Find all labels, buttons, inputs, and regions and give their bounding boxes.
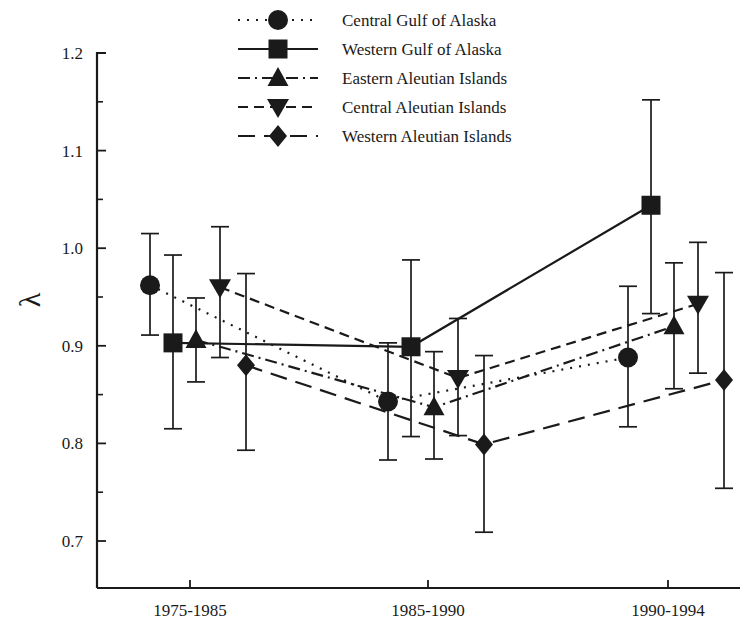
legend-item[interactable]: Central Aleutian Islands — [238, 98, 506, 118]
marker-circle — [268, 10, 288, 30]
x-tick-label-2: 1990-1994 — [631, 601, 705, 620]
y-tick-label-1.2: 1.2 — [62, 44, 83, 63]
series-markers-group — [140, 196, 733, 456]
legend-item-label: Western Aleutian Islands — [342, 127, 512, 146]
x-tick-label-0: 1975-1985 — [153, 601, 227, 620]
marker-square — [642, 196, 661, 215]
series-line-2 — [196, 326, 674, 407]
chart-figure: 0.70.80.91.01.11.21975-19851985-19901990… — [0, 0, 746, 642]
marker-circle — [618, 348, 638, 368]
marker-triangle-up — [424, 396, 445, 415]
series-line-1 — [173, 205, 651, 347]
marker-triangle-down — [267, 99, 289, 118]
series-line-4 — [246, 365, 724, 444]
marker-diamond — [269, 125, 287, 147]
marker-square — [402, 337, 421, 356]
x-tick-label-1: 1985-1990 — [391, 601, 465, 620]
marker-triangle-up — [186, 329, 207, 348]
y-axis-line — [97, 53, 106, 588]
y-axis-title: λ — [13, 292, 46, 307]
marker-diamond — [237, 354, 255, 376]
marker-triangle-up — [268, 67, 289, 86]
legend-item[interactable]: Eastern Aleutian Islands — [238, 67, 507, 88]
legend-item[interactable]: Western Gulf of Alaska — [238, 40, 502, 60]
legend-item-label: Central Aleutian Islands — [342, 98, 506, 117]
legend-item-label: Central Gulf of Alaska — [342, 11, 497, 30]
legend: Central Gulf of AlaskaWestern Gulf of Al… — [238, 10, 512, 147]
legend-item-label: Eastern Aleutian Islands — [342, 69, 507, 88]
y-tick-label-0.7: 0.7 — [62, 532, 84, 551]
marker-triangle-down — [209, 279, 231, 298]
marker-circle — [140, 275, 160, 295]
marker-diamond — [715, 369, 733, 391]
y-tick-label-0.9: 0.9 — [62, 337, 83, 356]
marker-circle — [378, 391, 398, 411]
legend-item[interactable]: Central Gulf of Alaska — [238, 10, 497, 30]
marker-square — [164, 333, 183, 352]
marker-diamond — [475, 433, 493, 455]
y-tick-label-1.1: 1.1 — [62, 142, 83, 161]
y-tick-label-1.0: 1.0 — [62, 239, 83, 258]
legend-item-label: Western Gulf of Alaska — [342, 40, 502, 59]
marker-square — [269, 40, 288, 59]
lambda-trend-chart: 0.70.80.91.01.11.21975-19851985-19901990… — [0, 0, 746, 642]
marker-triangle-down — [447, 370, 469, 389]
legend-item[interactable]: Western Aleutian Islands — [238, 125, 512, 147]
error-bars-group — [141, 100, 733, 532]
y-tick-label-0.8: 0.8 — [62, 434, 83, 453]
marker-triangle-up — [664, 315, 685, 334]
